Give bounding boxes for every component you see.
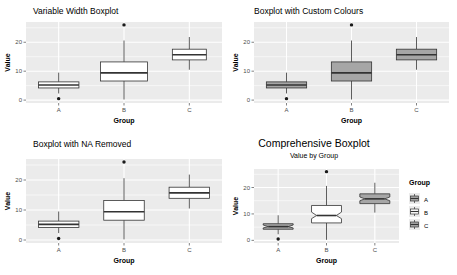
outlier-point <box>285 97 288 100</box>
chart-comprehensive-boxplot: Comprehensive BoxplotValue by Group01020… <box>228 133 457 275</box>
chart-na-removed-boxplot: Boxplot with NA Removed01020ABCGroupValu… <box>0 133 228 275</box>
outlier-point <box>276 237 279 240</box>
outlier-point <box>57 97 60 100</box>
legend-label-A: A <box>424 197 428 203</box>
y-axis-title: Value <box>232 197 239 215</box>
x-tick-label-A: A <box>57 107 61 113</box>
y-tick-label: 10 <box>15 207 22 213</box>
x-tick-label-B: B <box>122 247 126 253</box>
box-rect <box>331 62 371 81</box>
chart-title: Boxplot with Custom Colours <box>254 6 363 16</box>
y-axis-title: Value <box>4 192 11 210</box>
x-axis-title: Group <box>316 257 337 265</box>
chart-title: Comprehensive Boxplot <box>258 137 370 149</box>
panel-variable-width-boxplot: Variable Width Boxplot01020ABCGroupValue <box>0 0 228 133</box>
x-tick-label-A: A <box>276 247 280 253</box>
chart-custom-colours-boxplot: Boxplot with Custom Colours01020ABCGroup… <box>228 0 457 133</box>
y-tick-label: 10 <box>15 68 22 74</box>
y-axis-title: Value <box>232 53 239 71</box>
chart-title: Variable Width Boxplot <box>33 6 119 16</box>
legend-label-B: B <box>424 210 428 216</box>
x-axis-title: Group <box>341 117 362 125</box>
x-tick-label-B: B <box>122 107 126 113</box>
x-tick-label-C: C <box>187 107 192 113</box>
x-axis-title: Group <box>114 117 135 125</box>
y-tick-label: 20 <box>243 39 250 45</box>
panel-na-removed-boxplot: Boxplot with NA Removed01020ABCGroupValu… <box>0 133 228 275</box>
outlier-point <box>57 237 60 240</box>
plot-panel <box>26 159 222 243</box>
outlier-point <box>325 170 328 173</box>
y-tick-label: 20 <box>243 185 250 191</box>
x-tick-label-B: B <box>349 107 353 113</box>
x-tick-label-B: B <box>324 247 328 253</box>
chart-title: Boxplot with NA Removed <box>33 139 132 149</box>
legend-title: Group <box>409 179 430 187</box>
plot-panel <box>254 22 449 103</box>
y-tick-label: 10 <box>243 211 250 217</box>
x-tick-label-A: A <box>284 107 288 113</box>
boxplot-figure-grid: Variable Width Boxplot01020ABCGroupValue… <box>0 0 457 275</box>
outlier-point <box>122 160 125 163</box>
plot-panel <box>254 169 399 243</box>
box-rect <box>100 62 147 81</box>
y-axis-title: Value <box>4 53 11 71</box>
panel-comprehensive-boxplot: Comprehensive BoxplotValue by Group01020… <box>228 133 457 275</box>
y-tick-label: 10 <box>243 68 250 74</box>
outlier-point <box>350 23 353 26</box>
y-tick-label: 20 <box>15 39 22 45</box>
x-tick-label-C: C <box>414 107 419 113</box>
box-rect <box>104 200 145 220</box>
chart-subtitle: Value by Group <box>290 152 338 160</box>
x-tick-label-C: C <box>373 247 378 253</box>
x-axis-title: Group <box>114 257 135 265</box>
outlier-point <box>122 23 125 26</box>
x-tick-label-A: A <box>57 247 61 253</box>
box-rect-notched <box>312 205 342 222</box>
plot-panel <box>26 22 222 103</box>
chart-variable-width-boxplot: Variable Width Boxplot01020ABCGroupValue <box>0 0 228 133</box>
panel-custom-colours-boxplot: Boxplot with Custom Colours01020ABCGroup… <box>228 0 457 133</box>
y-tick-label: 20 <box>15 177 22 183</box>
legend-label-C: C <box>424 223 429 229</box>
x-tick-label-C: C <box>187 247 192 253</box>
